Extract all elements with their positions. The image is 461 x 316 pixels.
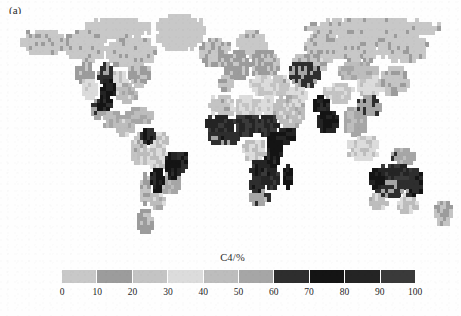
colorbar-tick-50: 50 [234,287,244,297]
colorbar-segment-1 [97,270,131,283]
colorbar-tick-20: 20 [128,287,138,297]
colorbar-gradient [62,270,415,283]
scan-artifact-text [300,0,460,7]
colorbar-tick-80: 80 [340,287,350,297]
colorbar-tick-70: 70 [304,287,314,297]
colorbar-segment-0 [62,270,96,283]
colorbar-segment-8 [345,270,379,283]
colorbar-title: C4/% [0,252,461,263]
colorbar-title-text: C4/% [220,252,245,263]
colorbar: C4/% 0102030405060708090100 [0,252,461,308]
colorbar-tick-10: 10 [93,287,103,297]
colorbar-segment-7 [310,270,344,283]
colorbar-tick-0: 0 [60,287,65,297]
colorbar-tick-labels: 0102030405060708090100 [62,285,415,301]
figure-panel-a: (a) C4/% 0102030405060708090100 [0,0,461,316]
colorbar-segment-2 [133,270,167,283]
c4-percentage-map-canvas [8,14,453,242]
colorbar-segment-9 [381,270,415,283]
colorbar-tick-90: 90 [375,287,385,297]
colorbar-tick-30: 30 [163,287,173,297]
colorbar-tick-40: 40 [198,287,208,297]
colorbar-tick-60: 60 [269,287,279,297]
colorbar-segment-3 [168,270,202,283]
world-map [8,14,453,242]
colorbar-segment-4 [204,270,238,283]
colorbar-segment-6 [274,270,308,283]
colorbar-tick-100: 100 [408,287,422,297]
colorbar-segment-5 [239,270,273,283]
